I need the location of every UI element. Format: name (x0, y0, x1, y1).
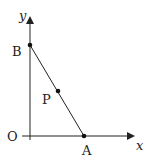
origin-label: O (7, 129, 18, 144)
coordinate-diagram: y B P O A x (0, 0, 152, 160)
point-b-label: B (12, 44, 22, 59)
point-p (56, 89, 61, 94)
point-p-label: P (42, 92, 51, 107)
point-a (82, 134, 87, 139)
point-b (28, 43, 33, 48)
y-axis-label: y (18, 8, 27, 23)
x-axis-label: x (136, 138, 144, 153)
point-a-label: A (81, 143, 92, 158)
